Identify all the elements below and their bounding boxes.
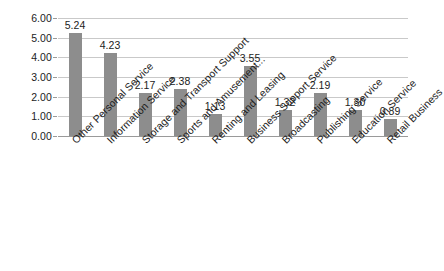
y-axis-tick-label: 2.00 [12,92,52,102]
y-tick-mark [53,77,57,78]
y-axis-tick-label: 3.00 [12,72,52,82]
y-axis-tick-label: 1.00 [12,111,52,121]
y-tick-mark [53,116,57,117]
y-tick-mark [53,38,57,39]
x-axis: Other Personal ServiceInformation Servic… [58,138,422,263]
y-tick-mark [53,57,57,58]
y-tick-mark [53,97,57,98]
y-axis: 6.005.004.003.002.001.000.00 [10,18,52,136]
y-tick-mark [53,18,57,19]
y-axis-tick-label: 6.00 [12,13,52,23]
y-axis-tick-label: 5.00 [12,33,52,43]
y-axis-tick-label: 4.00 [12,52,52,62]
bar [69,33,82,136]
y-tick-mark [53,136,57,137]
y-axis-tick-label: 0.00 [12,131,52,141]
bar-value-label: 4.23 [88,40,132,51]
bar-value-label: 5.24 [53,20,97,31]
